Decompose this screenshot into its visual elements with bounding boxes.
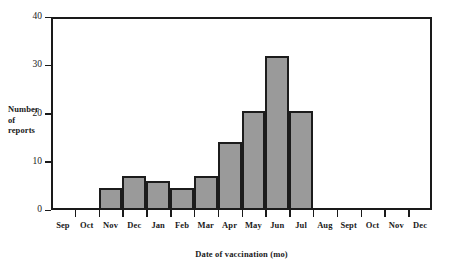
y-axis-title: Number of reports xyxy=(8,104,52,136)
x-axis-tick-label: Nov xyxy=(103,220,118,230)
bar xyxy=(289,111,313,210)
bar-chart-figure: Number of reports 010203040 SepOctNovDec… xyxy=(0,0,449,271)
x-axis-tick-label: Jul xyxy=(295,220,307,230)
y-axis-tick-label: 0 xyxy=(37,204,42,214)
x-axis-tick-label: Oct xyxy=(366,220,380,230)
x-axis-tick-label: Dec xyxy=(413,220,427,230)
x-axis-ticks xyxy=(51,210,432,218)
x-axis-tick-mark xyxy=(194,210,196,217)
y-axis-title-line-2: of xyxy=(8,115,52,126)
x-axis-tick-label: Oct xyxy=(80,220,94,230)
x-axis-tick-label: Dec xyxy=(127,220,141,230)
bar xyxy=(122,176,146,210)
bar xyxy=(194,176,218,210)
x-axis-tick-label: Sep xyxy=(56,220,70,230)
bars-container xyxy=(51,17,432,210)
x-axis-tick-mark xyxy=(313,210,315,217)
y-axis-tick-label: 30 xyxy=(33,59,43,69)
y-axis-tick-label: 40 xyxy=(33,11,43,21)
x-axis-tick-label: Sept xyxy=(340,220,356,230)
x-axis-labels: SepOctNovDecJanFebMarAprMayJunJulAugSept… xyxy=(51,220,432,234)
x-axis-tick-mark xyxy=(408,210,410,217)
x-axis-tick-mark xyxy=(122,210,124,217)
x-axis-tick-label: Feb xyxy=(175,220,189,230)
x-axis-tick-mark xyxy=(170,210,172,217)
x-axis-tick-mark xyxy=(337,210,339,217)
bar xyxy=(242,111,266,210)
x-axis-tick-label: Mar xyxy=(198,220,214,230)
x-axis-tick-label: Aug xyxy=(317,220,332,230)
x-axis-tick-mark xyxy=(146,210,148,217)
x-axis-tick-mark xyxy=(99,210,101,217)
x-axis-tick-label: Jan xyxy=(151,220,165,230)
y-axis-tick-label: 20 xyxy=(33,108,43,118)
x-axis-tick-mark xyxy=(384,210,386,217)
bar xyxy=(170,188,194,210)
y-axis-tick-label: 10 xyxy=(33,156,43,166)
x-axis-tick-mark xyxy=(265,210,267,217)
bar xyxy=(146,181,170,210)
x-axis-tick-label: Nov xyxy=(389,220,404,230)
x-axis-tick-mark xyxy=(75,210,77,217)
bar xyxy=(218,142,242,210)
y-axis-title-line-3: reports xyxy=(8,125,52,136)
bar xyxy=(265,56,289,210)
x-axis-tick-label: Apr xyxy=(222,220,237,230)
x-axis-tick-mark xyxy=(218,210,220,217)
x-axis-tick-label: Jun xyxy=(270,220,284,230)
x-axis-tick-mark xyxy=(242,210,244,217)
x-axis-title: Date of vaccination (mo) xyxy=(51,249,432,259)
x-axis-tick-mark xyxy=(289,210,291,217)
x-axis-tick-mark xyxy=(361,210,363,217)
bar xyxy=(99,188,123,210)
x-axis-tick-label: May xyxy=(245,220,262,230)
